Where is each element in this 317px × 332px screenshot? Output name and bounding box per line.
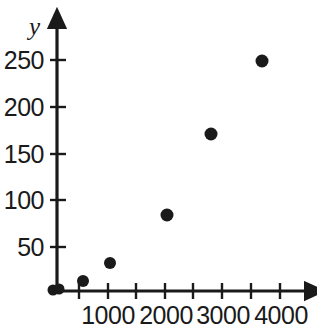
x-tick-label-3000: 3000	[196, 303, 250, 328]
x-tick-label-4000: 4000	[254, 303, 308, 328]
y-axis-label: y	[29, 14, 40, 39]
y-tick-label-50: 50	[0, 235, 44, 260]
scatter-plot-figure: y 250 200 150 100 50 1000 2000 3000 4000	[0, 0, 317, 332]
data-point	[77, 275, 89, 287]
x-tick-label-1000: 1000	[81, 303, 135, 328]
x-tick-label-2000: 2000	[139, 303, 193, 328]
y-tick-label-250: 250	[0, 48, 44, 73]
y-tick-label-150: 150	[0, 142, 44, 167]
data-point	[256, 55, 269, 68]
data-point	[104, 257, 116, 269]
plot-canvas	[0, 0, 317, 332]
data-point	[205, 128, 218, 141]
data-point	[161, 209, 174, 222]
y-tick-label-100: 100	[0, 188, 44, 213]
data-points	[48, 55, 269, 296]
y-tick-label-200: 200	[0, 95, 44, 120]
data-point	[54, 284, 65, 295]
